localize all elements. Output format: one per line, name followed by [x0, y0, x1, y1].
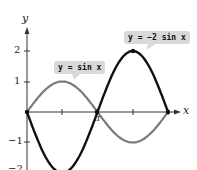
- plot-area: [0, 0, 197, 170]
- x-axis-arrow-icon: [174, 110, 181, 115]
- annotation-sin-x: y = sin x: [54, 61, 105, 74]
- y-tick-1: 1: [14, 75, 20, 86]
- y-axis-arrow-icon: [25, 27, 30, 34]
- y-tick-neg2: −2: [8, 163, 23, 170]
- y-tick-neg1: −1: [8, 135, 23, 146]
- y-tick-2: 2: [14, 44, 20, 55]
- y-axis-label: y: [22, 12, 28, 25]
- x-tick-pi: π: [94, 113, 100, 123]
- annotation-neg2-sin-x: y = −2 sin x: [124, 31, 190, 44]
- x-axis-label: x: [183, 104, 189, 117]
